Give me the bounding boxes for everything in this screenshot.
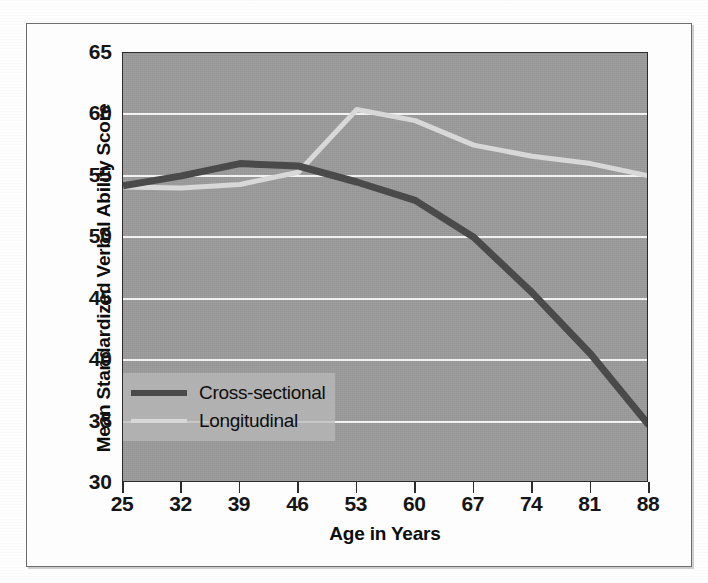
x-tick-label-81: 81	[565, 492, 615, 516]
y-tick-label-60: 60	[68, 101, 112, 125]
x-tick-label-46: 46	[272, 492, 322, 516]
y-tick-label-50: 50	[68, 224, 112, 248]
legend-item-cross-sectional: Cross-sectional	[131, 379, 325, 407]
y-tick-label-30: 30	[68, 470, 112, 494]
y-axis-title-holder: Mean Standardized Verbal Ability Score	[34, 52, 70, 482]
x-tick-label-67: 67	[448, 492, 498, 516]
legend-swatch-longitudinal	[131, 419, 187, 423]
y-tick-label-45: 45	[68, 286, 112, 310]
figure-page: Mean Standardized Verbal Ability Score 3…	[0, 0, 708, 583]
x-tick-label-60: 60	[389, 492, 439, 516]
plot-area: Cross-sectional Longitudinal	[122, 52, 648, 482]
x-tick-label-25: 25	[97, 492, 147, 516]
y-tick-label-55: 55	[68, 163, 112, 187]
y-tick-label-35: 35	[68, 409, 112, 433]
x-tick-label-32: 32	[155, 492, 205, 516]
x-tick-label-39: 39	[214, 492, 264, 516]
x-tick-label-53: 53	[331, 492, 381, 516]
line-chart: Mean Standardized Verbal Ability Score 3…	[0, 0, 708, 583]
legend-label-longitudinal: Longitudinal	[199, 410, 298, 432]
legend-item-longitudinal: Longitudinal	[131, 407, 325, 435]
x-tick-label-74: 74	[506, 492, 556, 516]
y-tick-label-40: 40	[68, 347, 112, 371]
legend-label-cross-sectional: Cross-sectional	[199, 382, 325, 404]
series-line-longitudinal	[123, 110, 648, 189]
legend: Cross-sectional Longitudinal	[122, 373, 335, 441]
x-tick-label-88: 88	[623, 492, 673, 516]
y-tick-label-65: 65	[68, 40, 112, 64]
x-axis-title: Age in Years	[122, 523, 648, 545]
legend-swatch-cross-sectional	[131, 390, 187, 396]
